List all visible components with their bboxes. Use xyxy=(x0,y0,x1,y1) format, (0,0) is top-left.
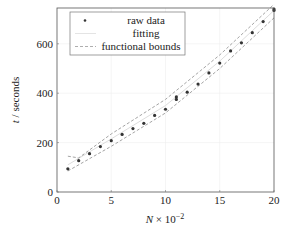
x-tick-label: 0 xyxy=(54,194,60,206)
data-point xyxy=(99,145,102,148)
legend-label-raw-data: raw data xyxy=(127,14,165,26)
data-point xyxy=(186,91,189,94)
data-point xyxy=(110,139,113,142)
x-tick-label: 20 xyxy=(269,194,281,206)
data-point xyxy=(251,31,254,34)
y-tick-label: 0 xyxy=(48,186,54,198)
legend: raw data fitting functional bounds xyxy=(70,12,185,55)
x-tick-label: 15 xyxy=(214,194,226,206)
y-axis-ticks: 0200400600 xyxy=(37,38,60,198)
chart: 05101520 0200400600 raw data fitting fun… xyxy=(0,0,288,232)
data-point xyxy=(121,133,124,136)
data-point xyxy=(142,122,145,125)
data-point xyxy=(207,71,210,74)
data-point xyxy=(240,41,243,44)
legend-label-fitting: fitting xyxy=(133,27,160,39)
y-axis-label: t / seconds xyxy=(9,77,21,123)
x-axis-label: N × 10−2 xyxy=(145,212,185,225)
data-point xyxy=(196,82,199,85)
legend-label-functional-bounds: functional bounds xyxy=(101,40,180,52)
x-tick-label: 10 xyxy=(160,194,172,206)
data-point xyxy=(164,108,167,111)
data-point xyxy=(88,152,91,155)
y-tick-label: 600 xyxy=(37,38,54,50)
data-point xyxy=(131,127,134,130)
y-tick-label: 400 xyxy=(37,87,54,99)
data-point xyxy=(153,114,156,117)
data-point xyxy=(66,167,69,170)
y-tick-label: 200 xyxy=(37,137,54,149)
data-point xyxy=(218,61,221,64)
data-point xyxy=(175,95,178,98)
data-point xyxy=(77,159,80,162)
data-point xyxy=(229,49,232,52)
data-point xyxy=(262,20,265,23)
legend-marker-raw-data-icon xyxy=(84,19,87,22)
x-tick-label: 5 xyxy=(109,194,115,206)
